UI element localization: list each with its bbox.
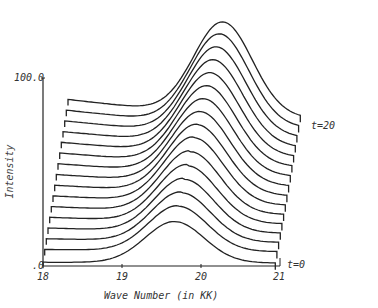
t-front-label: t=0	[287, 259, 305, 270]
y-max-label: 100.0	[14, 72, 44, 83]
t-back-label: t=20	[311, 120, 335, 131]
x-tick-label-19: 19	[116, 271, 128, 282]
x-axis-title: Wave Number (in KK)	[104, 290, 218, 301]
spectra-curves	[43, 22, 300, 296]
y-min-label: .0	[32, 260, 44, 271]
y-axis-title: Intensity	[4, 144, 15, 198]
waterfall-chart	[0, 0, 378, 308]
x-tick-label-21: 21	[273, 271, 285, 282]
x-tick-label-18: 18	[37, 271, 49, 282]
x-tick-label-20: 20	[195, 271, 207, 282]
